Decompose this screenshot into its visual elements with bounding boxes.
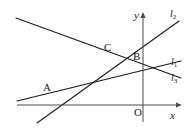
x-axis-label: x — [170, 110, 175, 121]
x-axis-arrowhead — [176, 102, 182, 107]
line-l3 — [16, 18, 181, 78]
y-axis-label: y — [134, 10, 139, 21]
y-axis-arrowhead — [140, 12, 145, 18]
point-label-b: B — [133, 51, 140, 62]
origin-label: O — [134, 107, 142, 118]
line-label-l3-subscript: 3 — [174, 77, 178, 85]
line-label-l2: l2 — [170, 9, 176, 19]
geometry-figure: y x O A B C l1 l2 l3 — [0, 0, 192, 129]
line-label-l3: l3 — [171, 73, 177, 83]
line-label-l2-subscript: 2 — [173, 13, 177, 21]
line-label-l1-subscript: 1 — [174, 61, 178, 69]
point-label-a: A — [43, 82, 51, 93]
line-label-l1: l1 — [171, 57, 177, 67]
line-l1 — [17, 61, 181, 101]
lines-group — [16, 18, 181, 123]
figure-canvas — [0, 0, 192, 129]
point-label-c: C — [104, 42, 111, 53]
line-l2 — [37, 21, 179, 123]
